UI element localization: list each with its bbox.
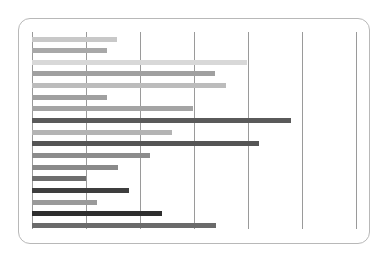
gridline	[248, 32, 249, 229]
bar	[32, 211, 162, 216]
bar	[32, 48, 107, 53]
bar	[32, 37, 117, 42]
bar	[32, 188, 129, 193]
bar	[32, 153, 150, 158]
bar	[32, 141, 259, 146]
bar	[32, 95, 107, 100]
gridline	[356, 32, 357, 229]
bar	[32, 165, 118, 170]
plot-area	[32, 32, 356, 229]
bar	[32, 106, 193, 111]
bar	[32, 200, 97, 205]
bar	[32, 130, 172, 135]
bar	[32, 60, 247, 65]
bar	[32, 176, 86, 181]
bar	[32, 118, 291, 123]
bar	[32, 71, 215, 76]
bar	[32, 223, 216, 228]
gridline	[302, 32, 303, 229]
bar	[32, 83, 226, 88]
